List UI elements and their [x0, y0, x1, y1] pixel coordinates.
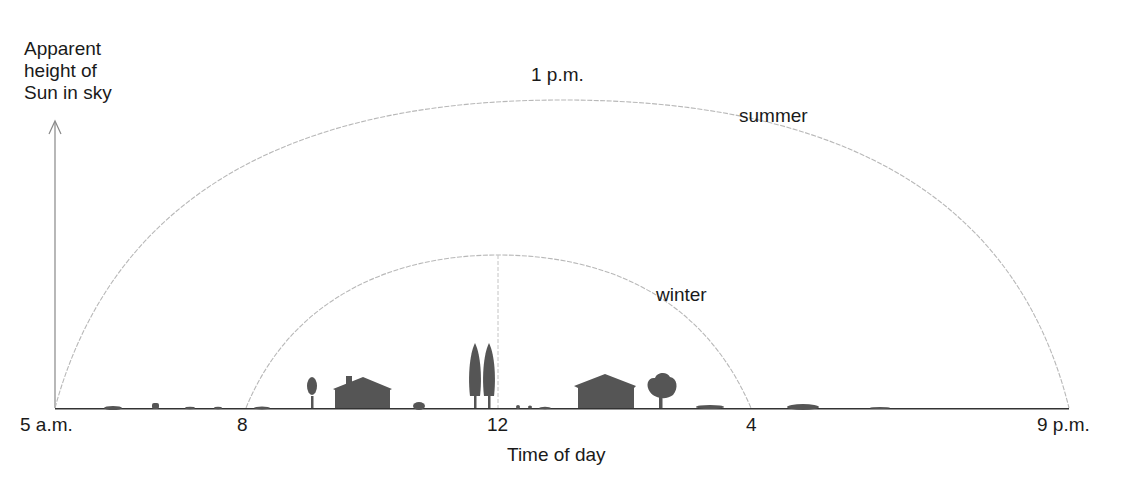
peak-label: 1 p.m. [531, 64, 584, 86]
winter-label: winter [656, 284, 707, 306]
tick-8: 8 [237, 414, 248, 436]
y-axis-label-line-3: Sun in sky [24, 82, 112, 104]
y-axis-label-line-2: height of [24, 60, 112, 82]
y-axis-label: Apparent height of Sun in sky [24, 38, 112, 104]
landscape-silhouette [55, 343, 1069, 410]
poplar-trees-icon [469, 343, 495, 408]
tick-4: 4 [746, 414, 757, 436]
summer-arc [55, 100, 1069, 408]
tick-5am: 5 a.m. [20, 414, 73, 436]
summer-label: summer [739, 105, 808, 127]
tree-icon [307, 377, 317, 408]
house-icon [333, 376, 392, 408]
house-icon [574, 374, 636, 408]
tree-icon [648, 373, 677, 408]
tick-12: 12 [487, 414, 508, 436]
tick-9pm: 9 p.m. [1037, 414, 1090, 436]
y-axis-label-line-1: Apparent [24, 38, 112, 60]
x-axis-label: Time of day [507, 444, 606, 466]
ground-line [55, 408, 1069, 410]
